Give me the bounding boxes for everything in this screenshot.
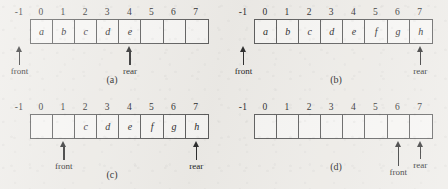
- index-label-3: 3: [320, 6, 342, 19]
- index-label-0: 0: [30, 6, 52, 19]
- array-cell-7[interactable]: h: [410, 20, 432, 43]
- array-cell-1[interactable]: [277, 115, 299, 138]
- panel-caption-b: (b): [224, 74, 448, 85]
- array-cell-6[interactable]: g: [164, 115, 186, 138]
- array-cell-5[interactable]: f: [141, 115, 163, 138]
- array-cell-6[interactable]: g: [388, 20, 410, 43]
- array-cell-3[interactable]: d: [321, 20, 343, 43]
- panel-b: -101234567abcdefghfrontrear(b): [224, 0, 448, 94]
- index-label-5: 5: [141, 101, 163, 114]
- arrow-shaft: [420, 51, 421, 65]
- index-label-6: 6: [163, 6, 185, 19]
- index-label-4: 4: [118, 101, 140, 114]
- index-label-6: 6: [387, 6, 409, 19]
- arrow-shaft: [196, 146, 197, 160]
- array-cell-0[interactable]: a: [255, 20, 277, 43]
- index-label-2: 2: [74, 101, 96, 114]
- index-label-6: 6: [163, 101, 185, 114]
- index-label-0: 0: [30, 101, 52, 114]
- array-cell-4[interactable]: e: [119, 115, 141, 138]
- array-cell-1[interactable]: b: [53, 20, 75, 43]
- index-label-4: 4: [342, 101, 364, 114]
- array-cell-3[interactable]: d: [97, 20, 119, 43]
- array-cell-1[interactable]: [53, 115, 75, 138]
- index-label-6: 6: [387, 101, 409, 114]
- array-cell-4[interactable]: e: [343, 20, 365, 43]
- array-cell-1[interactable]: b: [277, 20, 299, 43]
- array-cell-7[interactable]: [186, 20, 208, 43]
- index-label-7: 7: [409, 6, 431, 19]
- index-label-5: 5: [365, 101, 387, 114]
- index-label-negative-one: -1: [232, 6, 254, 19]
- index-label-7: 7: [185, 101, 207, 114]
- panel-caption-d: (d): [224, 161, 448, 172]
- index-label-0: 0: [254, 101, 276, 114]
- array-cell-0[interactable]: [255, 115, 277, 138]
- index-label-7: 7: [409, 101, 431, 114]
- index-label-5: 5: [141, 6, 163, 19]
- arrow-shaft: [420, 146, 421, 159]
- panel-c: -101234567cdefghfrontrear(c): [0, 95, 224, 189]
- array-cell-5[interactable]: f: [365, 20, 387, 43]
- array-cell-3[interactable]: [321, 115, 343, 138]
- array-cells: [254, 114, 433, 139]
- index-label-3: 3: [320, 101, 342, 114]
- array-cells: abcdefgh: [254, 19, 433, 44]
- index-label-0: 0: [254, 6, 276, 19]
- arrow-shaft: [19, 51, 20, 65]
- array-cell-2[interactable]: c: [299, 20, 321, 43]
- pointer-front: front: [398, 141, 399, 179]
- array-cell-0[interactable]: a: [31, 20, 53, 43]
- arrow-shaft: [63, 146, 64, 160]
- panel-a: -101234567abcdefrontrear(a): [0, 0, 224, 94]
- panel-d: -101234567frontrear(d): [224, 95, 448, 189]
- array-cell-7[interactable]: h: [186, 115, 208, 138]
- index-label-3: 3: [96, 101, 118, 114]
- panel-caption-c: (c): [0, 169, 224, 180]
- index-label-negative-one: -1: [232, 101, 254, 114]
- array-cell-4[interactable]: [343, 115, 365, 138]
- array-cell-2[interactable]: c: [75, 20, 97, 43]
- index-label-1: 1: [276, 101, 298, 114]
- panel-caption-a: (a): [0, 74, 224, 85]
- array-cell-2[interactable]: [299, 115, 321, 138]
- index-label-7: 7: [185, 6, 207, 19]
- index-label-4: 4: [118, 6, 140, 19]
- index-label-3: 3: [96, 6, 118, 19]
- array-cell-3[interactable]: d: [97, 115, 119, 138]
- index-label-negative-one: -1: [8, 6, 30, 19]
- index-label-1: 1: [52, 101, 74, 114]
- index-label-2: 2: [298, 6, 320, 19]
- index-label-2: 2: [298, 101, 320, 114]
- arrow-shaft: [243, 51, 244, 65]
- array-cells: cdefgh: [30, 114, 209, 139]
- array-cell-0[interactable]: [31, 115, 53, 138]
- array-cells: abcde: [30, 19, 209, 44]
- array-cell-4[interactable]: e: [119, 20, 141, 43]
- array-cell-7[interactable]: [410, 115, 432, 138]
- index-label-5: 5: [365, 6, 387, 19]
- index-label-4: 4: [342, 6, 364, 19]
- index-label-1: 1: [276, 6, 298, 19]
- index-label-1: 1: [52, 6, 74, 19]
- index-label-2: 2: [74, 6, 96, 19]
- array-cell-6[interactable]: [164, 20, 186, 43]
- array-cell-2[interactable]: c: [75, 115, 97, 138]
- array-cell-5[interactable]: [141, 20, 163, 43]
- arrow-shaft: [129, 51, 130, 65]
- array-cell-5[interactable]: [365, 115, 387, 138]
- index-label-negative-one: -1: [8, 101, 30, 114]
- array-cell-6[interactable]: [388, 115, 410, 138]
